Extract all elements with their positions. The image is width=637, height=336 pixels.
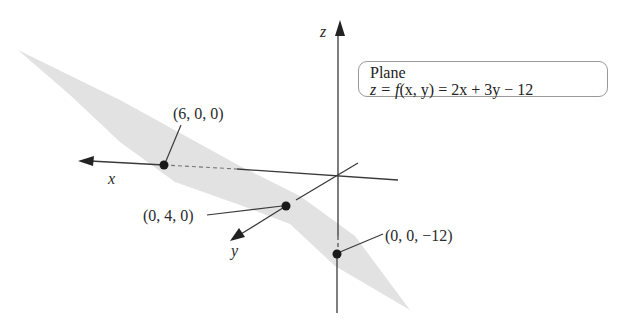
z-arrow-icon [335, 20, 345, 36]
plane-legend: Plane z = f(x, y) = 2x + 3y − 12 [358, 61, 608, 97]
x-arrow-icon [78, 156, 94, 166]
z-axis-label: z [320, 24, 326, 40]
point-0-0-m12 [333, 250, 342, 259]
equation-rhs: = 2x + 3y − 12 [434, 81, 533, 98]
x-axis-label: x [108, 171, 115, 187]
equation-args: (x, y) [399, 81, 434, 98]
point-6-0-0 [160, 161, 169, 170]
equation-lhs: z = [370, 81, 395, 98]
y-axis-upper [296, 163, 358, 200]
legend-title: Plane [370, 65, 607, 81]
y-axis-label: y [231, 243, 238, 259]
plane-surface [18, 50, 410, 310]
point-0-4-0 [282, 202, 291, 211]
point-label-0-4-0: (0, 4, 0) [143, 208, 194, 224]
plane-figure [0, 0, 637, 336]
legend-equation: z = f(x, y) = 2x + 3y − 12 [370, 81, 607, 98]
y-arrow-icon [230, 228, 245, 241]
point-label-6-0-0: (6, 0, 0) [173, 106, 224, 122]
point-label-0-0-m12: (0, 0, −12) [385, 228, 453, 244]
